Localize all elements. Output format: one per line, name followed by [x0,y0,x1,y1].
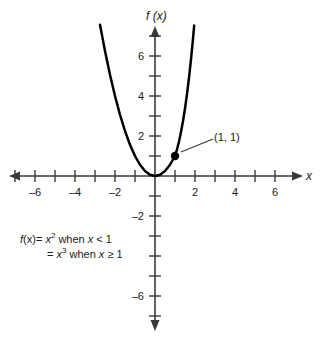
x-tick-label--6: –6 [25,186,45,198]
y-axis-arrow-down [151,320,160,331]
y-tick-label-2: 2 [126,130,144,142]
caption-condtail-2: ≥ 1 [104,248,122,260]
figure-container: f (x) x –6 –4 –2 2 4 6 6 4 2 –2 –6 (1, 1… [0,0,328,337]
x-tick-label-6: 6 [265,186,285,198]
point-annotation-label: (1, 1) [214,131,240,143]
function-definition-caption: f(x)= x2 when x < 1 = x3 when x ≥ 1 [20,232,123,262]
point-marker-1-1 [171,152,179,160]
y-tick-label-6: 6 [126,50,144,62]
caption-condtail-1: < 1 [93,233,112,245]
y-tick-label-4: 4 [126,90,144,102]
caption-when-2: when [66,248,98,260]
x-axis-arrow-right [292,172,303,181]
annotation-leader-line [181,139,213,152]
caption-line-1: f(x)= x2 when x < 1 [20,232,123,247]
y-axis-label: f (x) [146,9,167,23]
caption-fn-arg: (x) [23,233,36,245]
x-axis-label: x [306,169,312,183]
x-tick-label--2: –2 [105,186,125,198]
y-tick-label--2: –2 [120,210,144,222]
x-tick-label-4: 4 [225,186,245,198]
caption-line-2: = x3 when x ≥ 1 [20,247,123,262]
y-tick-label--6: –6 [120,290,144,302]
x-tick-label--4: –4 [65,186,85,198]
y-axis [149,26,161,331]
caption-eq-1: = [36,233,45,245]
coordinate-plane-svg [0,0,328,337]
cubic-branch [175,25,194,156]
caption-when-1: when [55,233,87,245]
x-tick-label-2: 2 [185,186,205,198]
